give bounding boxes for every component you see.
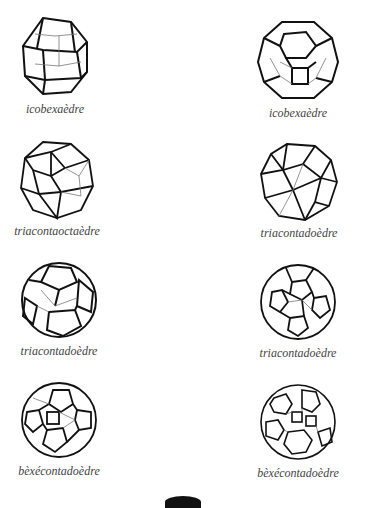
figure-cell: triacontadoèdre: [234, 142, 364, 241]
figure-caption: bèxécontadoèdre: [233, 466, 363, 481]
figure-cell: triacontaoctaèdre: [0, 140, 122, 239]
figure-cell: triacontadoèdre: [233, 262, 363, 361]
snub-cube-icon: [17, 140, 97, 220]
figure-caption: icobexaèdre: [0, 102, 120, 117]
truncated-cuboctahedron-icon: [256, 18, 340, 102]
truncated-icosahedron-icon: [258, 262, 338, 342]
figure-cell: icobexaèdre: [0, 14, 120, 117]
figure-caption: triacontadoèdre: [234, 226, 364, 241]
partial-figure-shape: [165, 496, 201, 508]
truncated-icosidodecahedron-icon: [258, 382, 338, 462]
figure-cell: bèxécontadoèdre: [233, 382, 363, 481]
rhombicuboctahedron-icon: [15, 14, 95, 98]
figure-caption: icobexaèdre: [233, 106, 363, 121]
figure-cell: icobexaèdre: [233, 18, 363, 121]
figure-caption: bèxécontadoèdre: [0, 464, 124, 479]
rhombicosidodecahedron-icon: [19, 380, 99, 460]
figure-cell: triacontadoèdre: [0, 260, 124, 359]
figure-caption: triacontadoèdre: [0, 344, 124, 359]
figure-caption: triacontadoèdre: [233, 346, 363, 361]
figure-caption: triacontaoctaèdre: [0, 224, 122, 239]
figure-cell: bèxécontadoèdre: [0, 380, 124, 479]
icosidodecahedron-icon: [259, 142, 339, 222]
truncated-dodecahedron-icon: [19, 260, 99, 340]
